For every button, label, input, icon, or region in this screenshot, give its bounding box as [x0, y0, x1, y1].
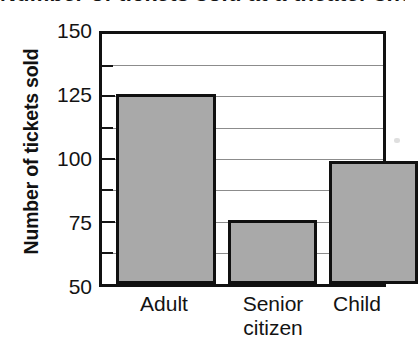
x-label-adult: Adult [101, 292, 227, 316]
bar-child [329, 161, 418, 284]
y-tick-label-50: 50 [32, 276, 92, 297]
x-label-child: Child [312, 292, 402, 316]
y-tick-label-150: 150 [32, 20, 92, 41]
axis-tick-125 [102, 95, 115, 97]
axis-tick-75 [102, 221, 115, 223]
gridline-137-5 [102, 65, 383, 66]
axis-tick-112-5 [102, 127, 113, 129]
plot-area [99, 31, 386, 287]
bar-adult [116, 94, 216, 284]
y-tick-label-100: 100 [32, 148, 92, 169]
plot-inner [102, 34, 383, 284]
chart-title: Number of tickets sold at a theater show… [0, 0, 405, 5]
axis-tick-100 [102, 158, 115, 160]
x-label-senior-citizen-line2: citizen [213, 316, 333, 340]
y-tick-label-75: 75 [32, 212, 92, 233]
y-tick-label-125: 125 [32, 84, 92, 105]
scan-artifact [394, 138, 400, 143]
axis-tick-87-5 [102, 189, 113, 191]
x-label-adult-line1: Adult [101, 292, 227, 316]
x-label-child-line1: Child [312, 292, 402, 316]
bar-senior-citizen [228, 220, 317, 284]
axis-tick-137-5 [102, 65, 113, 67]
axis-tick-62-5 [102, 252, 113, 254]
